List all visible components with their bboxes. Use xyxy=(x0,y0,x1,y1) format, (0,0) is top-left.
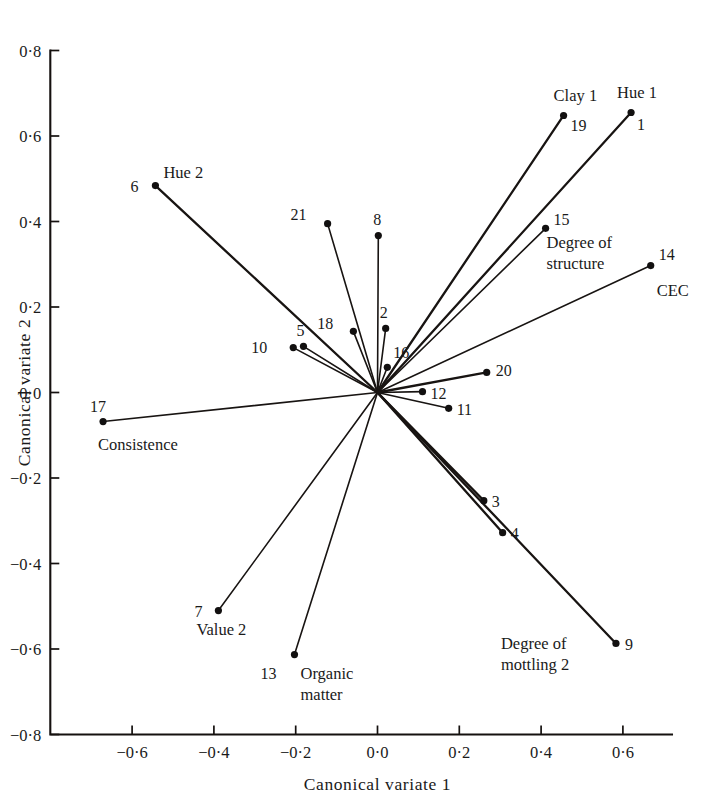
data-point xyxy=(99,418,106,425)
data-point xyxy=(350,328,357,335)
axis-frame xyxy=(50,51,672,735)
variable-name-label: Value 2 xyxy=(196,620,246,639)
data-point-number: 18 xyxy=(317,315,333,332)
variable-name-label: Clay 1 xyxy=(554,86,598,105)
variable-name-label: Degree ofstructure xyxy=(547,233,613,273)
data-point-number: 1 xyxy=(637,116,645,133)
variable-name-label: Degree ofmottling 2 xyxy=(501,634,569,674)
y-axis-title: Canonical variate 2 xyxy=(14,319,34,466)
x-axis-title: Canonical variate 1 xyxy=(304,774,451,794)
data-point xyxy=(499,529,506,536)
point-labels-group: 1Hue 123456Hue 27Value 289Degree ofmottl… xyxy=(90,83,689,703)
y-tick-label: −0·6 xyxy=(10,640,41,659)
data-point-number: 20 xyxy=(496,362,512,379)
data-point xyxy=(480,497,487,504)
x-tick-label: 0·6 xyxy=(612,743,634,762)
variable-vector xyxy=(378,112,632,392)
x-tick-label: −0·6 xyxy=(116,743,147,762)
variable-vector xyxy=(378,266,651,393)
variable-vector xyxy=(155,186,377,393)
variable-vector xyxy=(378,393,616,644)
variable-vector xyxy=(328,224,378,393)
data-point-number: 5 xyxy=(296,322,304,339)
data-point xyxy=(627,109,634,116)
data-point-number: 4 xyxy=(511,525,519,542)
y-tick-label: −0·4 xyxy=(10,555,41,574)
data-point xyxy=(300,343,307,350)
data-point-number: 11 xyxy=(457,401,472,418)
data-point-number: 10 xyxy=(251,339,267,356)
variable-vector xyxy=(378,228,546,392)
data-point-number: 6 xyxy=(130,178,138,195)
data-point xyxy=(384,364,391,371)
x-tick-label: −0·4 xyxy=(198,743,229,762)
vectors-group xyxy=(103,112,651,654)
data-point-number: 8 xyxy=(373,211,381,228)
x-tick-label: −0·2 xyxy=(280,743,311,762)
variable-name-label: Hue 2 xyxy=(163,163,203,182)
x-tick-label: 0·0 xyxy=(367,743,389,762)
data-point-number: 15 xyxy=(554,211,570,228)
variable-vector xyxy=(218,393,377,611)
data-point xyxy=(445,405,452,412)
variable-vector xyxy=(103,393,377,422)
data-point xyxy=(324,220,331,227)
chart-canvas: 0·80·60·40·20·0−0·2−0·4−0·6−0·8−0·6−0·4−… xyxy=(0,0,713,811)
variable-vector xyxy=(294,393,377,655)
data-point-number: 16 xyxy=(393,344,409,361)
y-tick-label: −0·2 xyxy=(10,469,41,488)
data-point xyxy=(612,640,619,647)
variable-vector xyxy=(353,331,377,392)
data-point-number: 17 xyxy=(90,398,106,415)
data-point xyxy=(375,232,382,239)
data-point xyxy=(542,225,549,232)
data-point xyxy=(560,112,567,119)
data-point xyxy=(152,182,159,189)
data-point-number: 3 xyxy=(492,493,500,510)
data-point-number: 12 xyxy=(430,385,446,402)
data-point xyxy=(215,607,222,614)
data-point-number: 13 xyxy=(260,665,276,682)
y-tick-label: 0·8 xyxy=(19,42,41,61)
data-point xyxy=(419,388,426,395)
y-tick-label: 0·4 xyxy=(19,213,41,232)
data-point-number: 9 xyxy=(625,636,633,653)
y-tick-label: −0·8 xyxy=(10,726,41,745)
variable-name-label: CEC xyxy=(657,281,689,300)
y-tick-label: 0·6 xyxy=(19,127,41,146)
variable-name-label: Organicmatter xyxy=(300,664,353,704)
data-point xyxy=(382,325,389,332)
data-point-number: 7 xyxy=(194,603,202,620)
variable-name-label: Hue 1 xyxy=(617,83,657,102)
x-tick-label: 0·2 xyxy=(448,743,470,762)
x-tick-label: 0·4 xyxy=(530,743,552,762)
data-point-number: 19 xyxy=(571,117,587,134)
data-point xyxy=(647,262,654,269)
variable-vector xyxy=(378,236,379,393)
data-point-number: 21 xyxy=(291,206,307,223)
data-point xyxy=(483,369,490,376)
variable-name-label: Consistence xyxy=(98,435,178,454)
data-point xyxy=(290,344,297,351)
y-tick-label: 0·2 xyxy=(19,298,41,317)
biplot-svg: 0·80·60·40·20·0−0·2−0·4−0·6−0·8−0·6−0·4−… xyxy=(0,0,713,811)
data-point xyxy=(291,651,298,658)
axes-group: 0·80·60·40·20·0−0·2−0·4−0·6−0·8−0·6−0·4−… xyxy=(10,42,672,762)
data-point-number: 2 xyxy=(380,304,388,321)
data-point-number: 14 xyxy=(659,246,675,263)
